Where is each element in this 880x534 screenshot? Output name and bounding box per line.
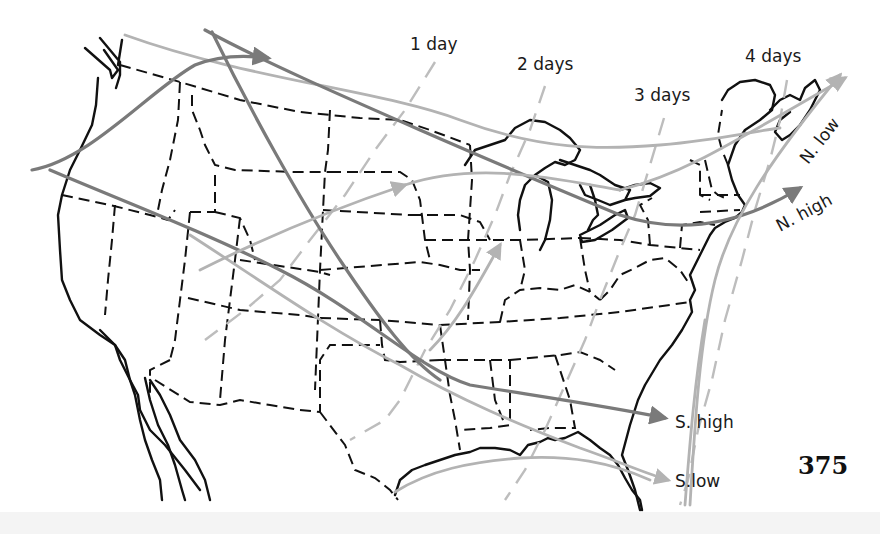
- gulf-coastline: [395, 432, 642, 510]
- label-2-days: 2 days: [517, 54, 573, 74]
- storm-track-map: 1 day 2 days 3 days 4 days N. low N. hig…: [0, 0, 880, 534]
- east-coastline: [622, 80, 775, 510]
- track-nw-to-south: [212, 32, 440, 380]
- label-4-days: 4 days: [745, 46, 801, 66]
- label-1-day: 1 day: [410, 34, 458, 54]
- coastline-group: [58, 38, 820, 510]
- map-canvas: 1 day 2 days 3 days 4 days N. low N. hig…: [0, 0, 880, 534]
- track-lakes-to-ne: [405, 78, 845, 190]
- label-s-low: S.low: [675, 471, 720, 491]
- label-s-high: S. high: [675, 412, 734, 432]
- great-lakes-coastline: [465, 120, 660, 250]
- labels-group: 1 day 2 days 3 days 4 days N. low N. hig…: [410, 34, 848, 491]
- label-n-high: N. high: [772, 189, 835, 235]
- page-bottom-edge: [0, 512, 880, 534]
- baja-coastline: [100, 330, 210, 500]
- page-number: 375: [798, 451, 848, 480]
- label-3-days: 3 days: [634, 85, 690, 105]
- isochrone-2-days: [350, 86, 545, 440]
- track-south-high: [50, 170, 665, 418]
- isochrones-group: [205, 62, 787, 505]
- isochrone-4-days: [680, 80, 787, 505]
